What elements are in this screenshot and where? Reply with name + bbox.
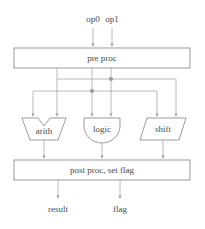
diagram-canvas: op0 op1 pre proc arith [0,0,205,229]
block-pre-proc-label: pre proc [87,53,117,63]
block-shift-label: shift [155,124,172,134]
input-label-op0: op0 [86,14,100,24]
output-flag-text: flag [113,204,127,214]
output-result-text: result [48,204,68,214]
input-op1-text: op1 [105,14,119,24]
input-op0-text: op0 [86,14,100,24]
block-post-proc-label: post proc, set flag [70,165,134,175]
block-logic-label: logic [93,124,111,134]
junction-dot-upper [109,77,113,81]
input-label-op1: op1 [105,14,119,24]
block-arith-label: arith [36,126,53,136]
junction-dot-lower [90,89,94,93]
